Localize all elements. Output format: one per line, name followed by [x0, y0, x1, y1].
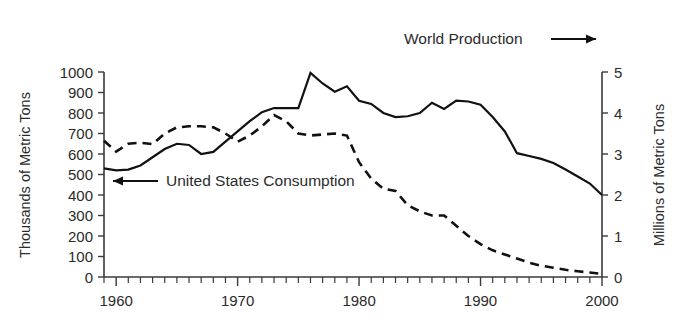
- right-axis-title: Millions of Metric Tons: [651, 104, 667, 246]
- legend-world-production: World Production: [404, 30, 596, 47]
- left-axis-tick-label: 900: [68, 84, 93, 101]
- right-axis-tick-label: 5: [614, 64, 622, 81]
- x-axis-tick-label: 1960: [99, 292, 132, 309]
- legend-world-production-arrowhead: [586, 35, 596, 44]
- left-y-axis: 01002003004005006007008009001000: [60, 64, 104, 286]
- legend-us-consumption: United States Consumption: [113, 172, 355, 189]
- x-axis-tick-label: 1980: [342, 292, 375, 309]
- chart-container: Thousands of Metric Tons Millions of Met…: [0, 0, 688, 334]
- right-axis-tick-label: 1: [614, 228, 622, 245]
- right-axis-tick-label: 0: [614, 269, 622, 286]
- left-axis-tick-label: 800: [68, 105, 93, 122]
- legend-us-consumption-label: United States Consumption: [166, 172, 355, 189]
- left-axis-title: Thousands of Metric Tons: [17, 92, 33, 258]
- right-axis-tick-label: 2: [614, 187, 622, 204]
- left-axis-tick-label: 0: [85, 269, 93, 286]
- left-axis-tick-label: 1000: [60, 64, 93, 81]
- left-axis-tick-label: 700: [68, 125, 93, 142]
- left-axis-tick-label: 200: [68, 228, 93, 245]
- legend-us-consumption-arrowhead: [113, 177, 123, 186]
- left-axis-tick-label: 600: [68, 146, 93, 163]
- left-axis-tick-label: 500: [68, 166, 93, 183]
- series-united-states-consumption: [104, 115, 602, 274]
- right-axis-tick-label: 3: [614, 146, 622, 163]
- x-axis-tick-label: 1990: [464, 292, 497, 309]
- x-axis: 19601970198019902000: [99, 277, 618, 309]
- x-axis-tick-label: 1970: [221, 292, 254, 309]
- legend-world-production-label: World Production: [404, 30, 523, 47]
- asbestos-production-consumption-line-chart: Thousands of Metric Tons Millions of Met…: [0, 0, 688, 334]
- left-axis-tick-label: 300: [68, 207, 93, 224]
- x-axis-tick-label: 2000: [585, 292, 618, 309]
- left-axis-tick-label: 100: [68, 248, 93, 265]
- left-axis-tick-label: 400: [68, 187, 93, 204]
- right-y-axis: 012345: [602, 64, 622, 286]
- right-axis-tick-label: 4: [614, 105, 622, 122]
